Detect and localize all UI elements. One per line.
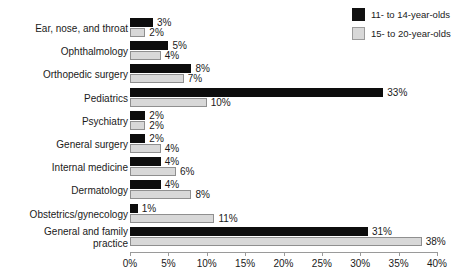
- bar-series-11-to-14: [130, 134, 145, 143]
- category-label: Pediatrics: [0, 93, 128, 105]
- bar-series-11-to-14: [130, 64, 191, 73]
- bar-value-15-to-20: 2%: [149, 121, 163, 131]
- bar-value-15-to-20: 4%: [165, 144, 179, 154]
- bar-series-11-to-14: [130, 157, 161, 166]
- bar-value-15-to-20: 4%: [165, 51, 179, 61]
- category-label: Psychiatry: [0, 116, 128, 128]
- x-axis-tick-label: 5%: [148, 258, 188, 269]
- x-axis-tick: [322, 252, 323, 256]
- category-label: General surgery: [0, 139, 128, 151]
- bar-series-15-to-20: [130, 74, 184, 83]
- bar-series-15-to-20: [130, 190, 191, 199]
- x-axis-tick-label: 30%: [340, 258, 380, 269]
- x-axis-tick-label: 20%: [264, 258, 304, 269]
- bar-series-11-to-14: [130, 41, 168, 50]
- bar-value-15-to-20: 6%: [180, 167, 194, 177]
- x-axis-tick: [399, 252, 400, 256]
- bar-series-15-to-20: [130, 214, 214, 223]
- bar-value-15-to-20: 11%: [218, 214, 237, 224]
- plot-area: Ear, nose, and throat3%2%Ophthalmology5%…: [0, 0, 472, 280]
- bar-series-15-to-20: [130, 167, 176, 176]
- x-axis-tick: [130, 252, 131, 256]
- bar-value-15-to-20: 8%: [195, 190, 209, 200]
- bar-series-15-to-20: [130, 51, 161, 60]
- bar-series-11-to-14: [130, 204, 138, 213]
- x-axis-tick-label: 25%: [302, 258, 342, 269]
- bar-series-15-to-20: [130, 28, 145, 37]
- bar-value-11-to-14: 31%: [372, 227, 392, 237]
- bar-value-15-to-20: 2%: [149, 28, 163, 38]
- bar-series-15-to-20: [130, 237, 422, 246]
- x-axis-tick-label: 15%: [225, 258, 265, 269]
- x-axis-tick: [437, 252, 438, 256]
- bar-value-15-to-20: 10%: [211, 98, 231, 108]
- bar-series-15-to-20: [130, 98, 207, 107]
- x-axis-tick: [168, 252, 169, 256]
- bar-series-11-to-14: [130, 180, 161, 189]
- bar-chart: 11- to 14-year-olds 15- to 20-year-olds …: [0, 0, 472, 280]
- bar-series-11-to-14: [130, 88, 383, 97]
- bar-series-11-to-14: [130, 227, 368, 236]
- bar-value-11-to-14: 2%: [149, 134, 163, 144]
- category-label: Internal medicine: [0, 162, 128, 174]
- category-label: Obstetrics/gynecology: [0, 209, 128, 221]
- bar-value-11-to-14: 1%: [142, 204, 156, 214]
- bar-value-11-to-14: 33%: [387, 88, 407, 98]
- bar-value-15-to-20: 38%: [426, 237, 446, 247]
- category-label: Orthopedic surgery: [0, 69, 128, 81]
- category-label: Dermatology: [0, 185, 128, 197]
- x-axis-tick-label: 10%: [187, 258, 227, 269]
- bar-series-11-to-14: [130, 111, 145, 120]
- bar-series-15-to-20: [130, 121, 145, 130]
- bar-value-11-to-14: 4%: [165, 180, 179, 190]
- x-axis-tick: [245, 252, 246, 256]
- x-axis-tick-label: 35%: [379, 258, 419, 269]
- bar-series-15-to-20: [130, 144, 161, 153]
- x-axis-tick: [284, 252, 285, 256]
- x-axis-tick-label: 40%: [417, 258, 457, 269]
- bar-value-15-to-20: 7%: [188, 74, 202, 84]
- x-axis-tick: [207, 252, 208, 256]
- category-label: General and family practice: [0, 226, 128, 249]
- x-axis-tick: [360, 252, 361, 256]
- bar-value-11-to-14: 4%: [165, 157, 179, 167]
- x-axis-tick-label: 0%: [110, 258, 150, 269]
- category-label: Ophthalmology: [0, 46, 128, 58]
- category-label: Ear, nose, and throat: [0, 23, 128, 35]
- bar-series-11-to-14: [130, 18, 153, 27]
